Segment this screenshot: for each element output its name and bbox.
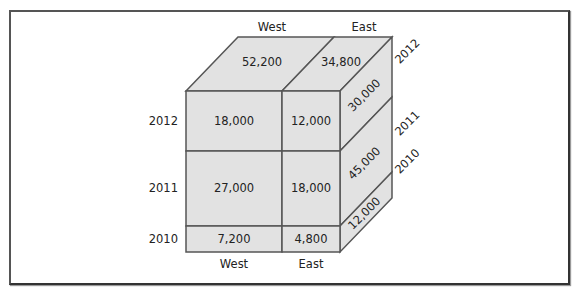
left-label-2010: 2010	[149, 232, 178, 246]
top-value-west: 52,200	[242, 55, 282, 69]
top-value-east: 34,800	[321, 55, 361, 69]
top-label-west: West	[258, 20, 287, 34]
value-2010-east: 4,800	[295, 232, 328, 246]
right-label-2011: 2011	[392, 108, 423, 139]
top-label-east: East	[352, 20, 377, 34]
bottom-label-west: West	[220, 257, 249, 271]
left-label-2011: 2011	[149, 181, 178, 195]
value-2012-west: 18,000	[214, 114, 254, 128]
bottom-label-east: East	[299, 257, 324, 271]
value-2010-west: 7,200	[218, 232, 251, 246]
left-label-2012: 2012	[149, 114, 178, 128]
value-2011-east: 18,000	[291, 181, 331, 195]
data-cube-diagram: West East West East 2012 2011 2010 2012 …	[0, 0, 578, 293]
value-2012-east: 12,000	[291, 114, 331, 128]
right-label-2012: 2012	[392, 36, 423, 67]
value-2011-west: 27,000	[214, 181, 254, 195]
right-label-2010: 2010	[392, 146, 423, 177]
